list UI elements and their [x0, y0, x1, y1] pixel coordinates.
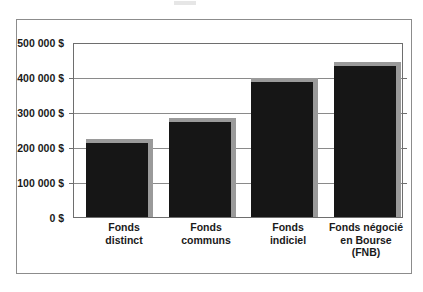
- bar-body-3: [251, 82, 313, 217]
- y-tick-mark-200000: [69, 148, 74, 149]
- x-tick-label-fonds-negocie: Fonds négocié en Bourse (FNB): [311, 221, 421, 259]
- chart-figure: 500 000 $ 400 000 $ 300 000 $ 200 000 $ …: [0, 0, 423, 292]
- x-axis-tick-labels: Fonds distinct Fonds communs Fonds indic…: [73, 221, 403, 271]
- bar-body-1: [86, 143, 148, 217]
- plot-area: [73, 43, 403, 218]
- bar-fonds-communs[interactable]: [169, 118, 236, 217]
- y-tick-label-200000: 200 000 $: [17, 143, 64, 154]
- y-tick-mark-right-400000: [402, 78, 407, 79]
- y-tick-mark-right-300000: [402, 113, 407, 114]
- bar-body-2: [169, 122, 231, 217]
- y-tick-label-500000: 500 000 $: [17, 38, 64, 49]
- y-tick-label-300000: 300 000 $: [17, 108, 64, 119]
- bar-fonds-indiciel[interactable]: [251, 78, 318, 217]
- bar-fonds-distinct[interactable]: [86, 139, 153, 217]
- y-tick-label-100000: 100 000 $: [17, 178, 64, 189]
- y-tick-label-400000: 400 000 $: [17, 73, 64, 84]
- cropped-title-remnant: [174, 1, 196, 5]
- y-tick-mark-right-100000: [402, 183, 407, 184]
- y-tick-mark-300000: [69, 113, 74, 114]
- bar-body-4: [334, 66, 396, 217]
- y-tick-mark-400000: [69, 78, 74, 79]
- bar-fonds-negocie-en-bourse[interactable]: [334, 62, 401, 217]
- y-tick-label-0: 0 $: [49, 213, 64, 224]
- y-tick-mark-100000: [69, 183, 74, 184]
- y-axis-tick-labels: 500 000 $ 400 000 $ 300 000 $ 200 000 $ …: [0, 43, 68, 218]
- y-tick-mark-right-200000: [402, 148, 407, 149]
